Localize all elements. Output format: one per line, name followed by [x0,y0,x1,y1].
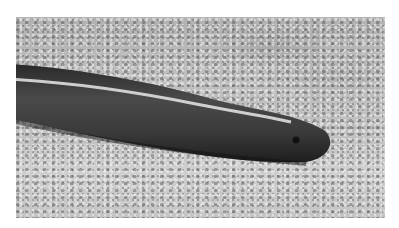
snake-body [16,52,336,167]
snake-eye [293,137,300,144]
photo [16,17,385,218]
